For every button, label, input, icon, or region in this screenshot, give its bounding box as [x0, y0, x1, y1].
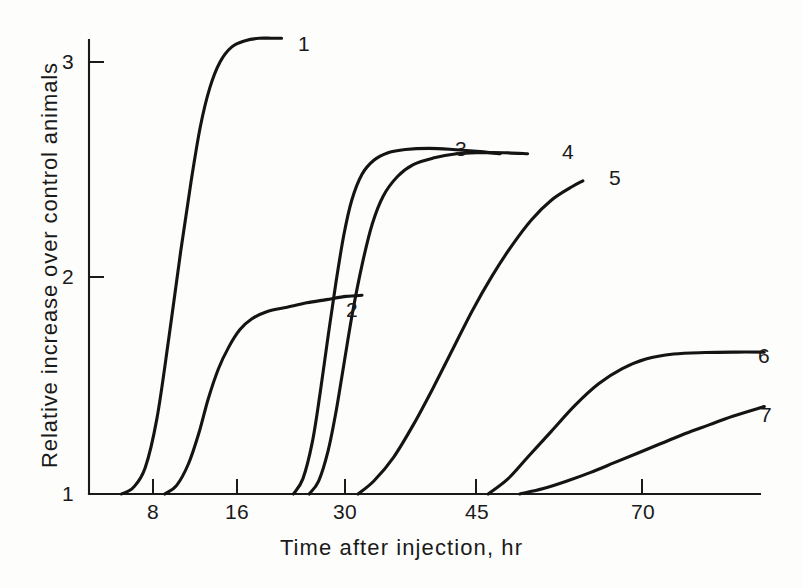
curve-label-7: 7 [760, 403, 772, 427]
curve-label-3: 3 [455, 137, 467, 161]
chart-figure: 3 2 1 8 16 30 45 70 1 2 3 4 5 6 7 Time a… [0, 0, 803, 588]
plot-area [0, 0, 803, 588]
curve-6 [488, 352, 764, 494]
curve-label-1: 1 [298, 32, 310, 56]
curve-label-4: 4 [562, 140, 574, 164]
x-tick-label-45: 45 [465, 500, 489, 524]
x-tick-label-70: 70 [631, 500, 655, 524]
curve-label-2: 2 [346, 298, 358, 322]
x-tick-label-8: 8 [147, 500, 159, 524]
x-axis-title: Time after injection, hr [0, 535, 803, 561]
curve-4 [309, 153, 527, 494]
x-tick-label-16: 16 [225, 500, 249, 524]
curve-2 [165, 295, 362, 494]
curve-label-5: 5 [609, 166, 621, 190]
curves-group [121, 38, 764, 494]
y-axis-title: Relative increase over control animals [37, 30, 63, 500]
x-tick-label-30: 30 [333, 500, 357, 524]
curve-label-6: 6 [758, 344, 770, 368]
curve-5 [358, 181, 583, 494]
curve-3 [293, 148, 500, 494]
